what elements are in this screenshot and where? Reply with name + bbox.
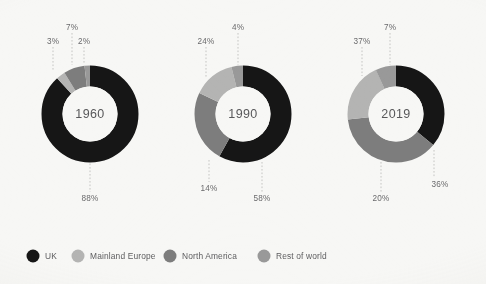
legend-item-uk[interactable]: UK (27, 250, 58, 263)
legend-swatch-icon-north-america (164, 250, 177, 263)
legend-item-mainland-europe[interactable]: Mainland Europe (72, 250, 156, 263)
pct-label-2019-rest: 7% (384, 23, 396, 32)
pct-label-2019-namerica: 20% (373, 194, 390, 203)
legend-swatch-icon-mainland-europe (72, 250, 85, 263)
donut-charts-figure: 1960 3% 7% 2% 88% 1990 (0, 0, 486, 284)
legend: UK Mainland Europe North America Rest of… (27, 250, 328, 263)
donut-center-label-1990: 1990 (228, 107, 257, 121)
legend-item-rest-of-world[interactable]: Rest of world (258, 250, 328, 263)
legend-swatch-icon-rest-of-world (258, 250, 271, 263)
donut-chart-1990: 1990 24% 4% 14% 58% (198, 23, 282, 203)
pct-label-2019-uk: 36% (432, 180, 449, 189)
chart-canvas: 1960 3% 7% 2% 88% 1990 (0, 0, 486, 284)
legend-item-north-america[interactable]: North America (164, 250, 238, 263)
legend-label-rest-of-world: Rest of world (276, 251, 327, 261)
pct-label-1960-rest: 2% (78, 37, 90, 46)
donut-chart-2019: 2019 37% 7% 20% 36% (354, 23, 449, 203)
pct-label-2019-mainland: 37% (354, 37, 371, 46)
pct-label-1960-uk: 88% (82, 194, 99, 203)
donut-chart-1960: 1960 3% 7% 2% 88% (47, 23, 128, 203)
donut-center-label-2019: 2019 (381, 107, 410, 121)
pct-label-1990-mainland: 24% (198, 37, 215, 46)
pct-label-1990-namerica: 14% (201, 184, 218, 193)
pct-label-1990-rest: 4% (232, 23, 244, 32)
legend-label-north-america: North America (182, 251, 237, 261)
pct-label-1960-mainland: 3% (47, 37, 59, 46)
pct-label-1960-namerica: 7% (66, 23, 78, 32)
legend-label-uk: UK (45, 251, 57, 261)
donut-center-label-1960: 1960 (75, 107, 104, 121)
legend-label-mainland-europe: Mainland Europe (90, 251, 156, 261)
pct-label-1990-uk: 58% (254, 194, 271, 203)
legend-swatch-icon-uk (27, 250, 40, 263)
